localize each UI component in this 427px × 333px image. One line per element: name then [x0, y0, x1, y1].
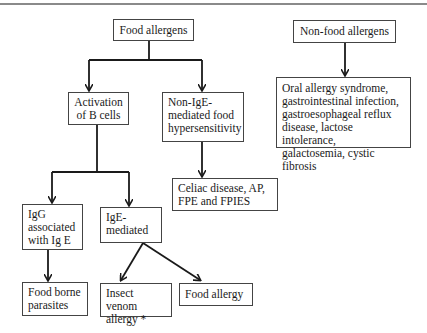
edge-ige-to-foodallergy: [143, 243, 200, 280]
node-ige-mediated: IgE- mediated: [100, 207, 162, 243]
node-food-allergens: Food allergens: [113, 19, 194, 41]
node-non-ige-mediated: Non-IgE- mediated food hypersensitivity: [162, 92, 244, 142]
node-non-ige-conditions: Celiac disease, AP, FPE and FPIES: [172, 178, 278, 211]
node-food-allergy: Food allergy: [179, 283, 253, 306]
edge-ige-to-venom: [121, 243, 143, 280]
node-non-food-conditions: Oral allergy syndrome, gastrointestinal …: [276, 77, 411, 148]
node-non-food-allergens: Non-food allergens: [293, 20, 396, 43]
node-activation-b-cells: Activation of B cells: [68, 92, 129, 125]
node-food-borne-parasites: Food borne parasites: [22, 282, 88, 316]
node-igg-associated: IgG associated with Ig E: [22, 204, 83, 250]
node-insect-venom-allergy: Insect venom allergy *: [100, 283, 172, 317]
